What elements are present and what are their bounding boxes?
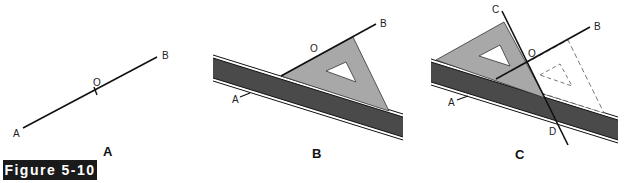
label-c: C: [492, 4, 499, 15]
label-o: O: [528, 48, 536, 59]
panel-a: A B O A: [13, 50, 169, 159]
panel-c: A B C D O C: [431, 4, 618, 162]
panel-caption-b: B: [312, 146, 321, 161]
diagram-canvas: A B O A A B O B A B C D O: [0, 0, 627, 183]
label-a: A: [232, 94, 239, 105]
label-a: A: [448, 97, 455, 108]
label-b: B: [380, 18, 387, 29]
panel-caption-c: C: [515, 147, 525, 162]
label-b: B: [594, 21, 601, 32]
label-d: D: [549, 126, 556, 137]
label-a: A: [13, 128, 20, 139]
label-b: B: [162, 50, 169, 61]
line-ab: [23, 57, 157, 128]
figure-label: Figure 5-10: [3, 160, 97, 180]
panel-b: A B O B: [213, 18, 403, 161]
line-a-stub: [457, 96, 468, 100]
label-o: O: [310, 43, 318, 54]
line-a-stub: [240, 93, 250, 97]
panel-caption-a: A: [103, 144, 113, 159]
label-o: O: [93, 77, 101, 88]
